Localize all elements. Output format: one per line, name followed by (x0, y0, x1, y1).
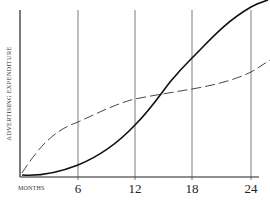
chart-canvas (0, 0, 270, 204)
solid-curve (22, 0, 268, 175)
y-axis-label: ADVERTISING EXPENDITURE (5, 19, 12, 169)
x-tick-12: 12 (129, 181, 142, 197)
x-tick-6: 6 (75, 181, 82, 197)
dashed-curve (22, 60, 270, 173)
x-tick-18: 18 (186, 181, 199, 197)
x-axis-label: MONTHS (18, 185, 45, 191)
x-tick-24: 24 (245, 181, 258, 197)
